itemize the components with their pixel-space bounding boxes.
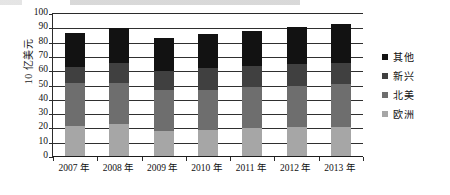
bar-segment[interactable]: [287, 64, 307, 85]
x-tick-label: 2008 年: [103, 160, 134, 174]
bar-segment[interactable]: [154, 90, 174, 131]
x-tick-label: 2013 年: [324, 160, 355, 174]
bar-segment[interactable]: [287, 86, 307, 127]
x-axis-line: [53, 156, 363, 157]
y-tick-label: 100: [22, 8, 48, 18]
bar-segment[interactable]: [109, 83, 129, 124]
chart-legend: 其他新兴北美欧洲: [382, 47, 446, 123]
bar-group[interactable]: [242, 31, 262, 157]
bar-segment[interactable]: [65, 126, 85, 157]
legend-item[interactable]: 北美: [382, 85, 446, 104]
legend-label: 欧洲: [393, 106, 414, 121]
bar-segment[interactable]: [109, 63, 129, 83]
bar-segment[interactable]: [242, 66, 262, 87]
plot-area: [52, 13, 363, 157]
bar-segment[interactable]: [154, 71, 174, 90]
y-tick-label: 0: [22, 151, 48, 161]
bars-layer: [53, 14, 363, 157]
bar-segment[interactable]: [198, 34, 218, 68]
bar-segment[interactable]: [109, 28, 129, 62]
bar-segment[interactable]: [198, 130, 218, 157]
y-tick-label: 60: [22, 65, 48, 75]
x-tick-label: 2011 年: [236, 160, 267, 174]
legend-item[interactable]: 新兴: [382, 66, 446, 85]
legend-swatch-icon: [382, 73, 388, 79]
stacked-bar-chart: 10 亿美元 0102030405060708090100 2007 年2008…: [0, 0, 450, 195]
bar-segment[interactable]: [65, 67, 85, 83]
bar-segment[interactable]: [287, 27, 307, 64]
y-axis-tick-labels: 0102030405060708090100: [22, 7, 48, 163]
legend-swatch-icon: [382, 92, 388, 98]
y-tick-label: 20: [22, 123, 48, 133]
bar-segment[interactable]: [109, 124, 129, 157]
y-tick-label: 50: [22, 80, 48, 90]
bar-segment[interactable]: [154, 131, 174, 157]
bar-segment[interactable]: [242, 87, 262, 128]
y-tick-label: 40: [22, 94, 48, 104]
bar-group[interactable]: [198, 34, 218, 157]
y-tick-label: 80: [22, 37, 48, 47]
bar-segment[interactable]: [198, 68, 218, 89]
bar-segment[interactable]: [242, 31, 262, 65]
legend-item[interactable]: 其他: [382, 47, 446, 66]
bar-segment[interactable]: [65, 83, 85, 126]
legend-item[interactable]: 欧洲: [382, 104, 446, 123]
bar-segment[interactable]: [331, 127, 351, 157]
x-tick-label: 2009 年: [147, 160, 178, 174]
x-tick-mark: [363, 157, 364, 161]
bar-segment[interactable]: [331, 84, 351, 127]
legend-label: 北美: [393, 87, 414, 102]
legend-swatch-icon: [382, 54, 388, 60]
y-tick-label: 10: [22, 137, 48, 147]
y-tick-label: 70: [22, 51, 48, 61]
x-tick-label: 2007 年: [58, 160, 89, 174]
bar-group[interactable]: [154, 38, 174, 157]
legend-label: 其他: [393, 49, 414, 64]
y-tick-label: 30: [22, 108, 48, 118]
x-tick-label: 2010 年: [191, 160, 222, 174]
x-tick-label: 2012 年: [280, 160, 311, 174]
bar-segment[interactable]: [154, 38, 174, 71]
bar-group[interactable]: [109, 28, 129, 157]
bar-group[interactable]: [331, 24, 351, 157]
bar-segment[interactable]: [287, 127, 307, 157]
bar-group[interactable]: [287, 27, 307, 157]
bar-segment[interactable]: [242, 128, 262, 157]
bar-segment[interactable]: [331, 24, 351, 63]
x-axis-tick-labels: 2007 年2008 年2009 年2010 年2011 年2012 年2013…: [52, 160, 362, 178]
legend-swatch-icon: [382, 111, 388, 117]
y-tick-label: 90: [22, 23, 48, 33]
bar-group[interactable]: [65, 33, 85, 157]
bar-segment[interactable]: [198, 90, 218, 130]
bar-segment[interactable]: [65, 33, 85, 67]
legend-label: 新兴: [393, 68, 414, 83]
bar-segment[interactable]: [331, 63, 351, 84]
